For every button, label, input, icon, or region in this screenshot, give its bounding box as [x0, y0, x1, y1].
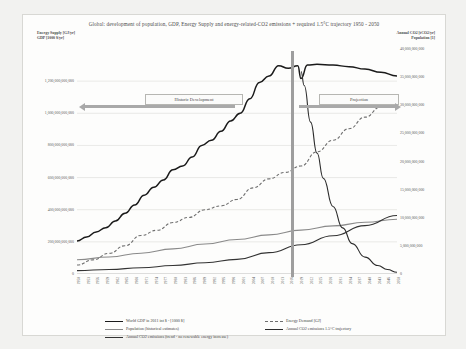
y-tick-right: 0 — [397, 272, 402, 276]
x-tick-label: 2016 — [290, 277, 294, 284]
x-tick-label: 1953 — [87, 277, 91, 284]
projection-divider-line — [291, 51, 294, 277]
legend-item[interactable]: Population (historical estimates) — [105, 326, 179, 332]
direction-arrow-head — [79, 103, 85, 111]
direction-arrow — [299, 105, 395, 108]
legend-label: Energy Demand [GJ] — [286, 318, 321, 323]
legend-label: Annual CO2 emissions 1.5°C trajectory — [286, 326, 351, 331]
x-tick-label: 1959 — [106, 277, 110, 284]
y-tick-right: 15,000,000,000 — [397, 188, 424, 192]
y-tick-left: 200,000,000,000 — [48, 240, 77, 244]
x-tick-label: 1971 — [145, 277, 149, 284]
direction-arrow — [85, 105, 235, 108]
plot-canvas — [77, 49, 397, 274]
plot-area: 1,200,000,000,0001,000,000,000,000800,00… — [77, 49, 397, 274]
x-tick-label: 1962 — [116, 277, 120, 284]
x-tick-label: 1986 — [193, 277, 197, 284]
chart-frame: Global: development of population, GDP, … — [22, 14, 446, 336]
x-tick-label: 1980 — [174, 277, 178, 284]
legend-label: World GDP in 2011 int $ - [1000 $] — [126, 318, 184, 323]
x-axis-ticks: 1950195319561959196219651968197119741977… — [77, 277, 397, 311]
annotation-projection: Projection — [319, 94, 399, 105]
y-tick-right: 10,000,000,000 — [397, 216, 424, 220]
x-tick-label: 1998 — [232, 277, 236, 284]
legend-swatch — [105, 337, 123, 338]
y-tick-left: 1,000,000,000,000 — [45, 111, 77, 115]
legend-item[interactable]: Annual CO2 emissions 1.5°C trajectory — [265, 326, 351, 332]
x-tick-label: 2043 — [378, 277, 382, 284]
x-tick-label: 1968 — [135, 277, 139, 284]
y-tick-left: 400,000,000,000 — [48, 208, 77, 212]
y-tick-right: 30,000,000,000 — [397, 103, 424, 107]
y-tick-right: 5,000,000,000 — [397, 244, 422, 248]
left-axis-header: Energy Supply [GJ/yr]GDP [1000 $/yr] — [37, 31, 75, 42]
x-tick-label: 1956 — [96, 277, 100, 284]
x-tick-label: 2019 — [300, 277, 304, 284]
x-tick-label: 1974 — [155, 277, 159, 284]
legend-item[interactable]: Energy Demand [GJ] — [265, 318, 321, 324]
x-tick-label: 1965 — [125, 277, 129, 284]
x-tick-label: 1977 — [164, 277, 168, 284]
x-tick-label: 2040 — [368, 277, 372, 284]
y-tick-left: 1,200,000,000,000 — [45, 79, 77, 83]
x-tick-label: 1950 — [77, 277, 81, 284]
x-tick-label: 2031 — [339, 277, 343, 284]
x-tick-label: 2034 — [349, 277, 353, 284]
x-tick-label: 2046 — [387, 277, 391, 284]
y-tick-left: 800,000,000,000 — [48, 143, 77, 147]
right-axis-header: Annual CO2 [tCO2/yr]Population [1] — [397, 31, 435, 42]
x-tick-label: 2022 — [310, 277, 314, 284]
y-tick-left: 0 — [72, 272, 77, 276]
x-tick-label: 2028 — [329, 277, 333, 284]
y-tick-left: 600,000,000,000 — [48, 176, 77, 180]
legend-swatch — [105, 321, 123, 322]
legend-label: Population (historical estimates) — [126, 326, 179, 331]
y-tick-right: 35,000,000,000 — [397, 75, 424, 79]
annotation-historic-development: Historic Development — [145, 94, 243, 105]
legend-swatch — [265, 329, 283, 330]
series-line — [77, 64, 397, 241]
x-tick-label: 1983 — [184, 277, 188, 284]
x-tick-label: 1989 — [203, 277, 207, 284]
y-tick-right: 25,000,000,000 — [397, 131, 424, 135]
chart-legend: World GDP in 2011 int $ - [1000 $]Energy… — [83, 318, 433, 348]
x-tick-label: 2050 — [397, 277, 401, 284]
legend-label: Annual CO2 emissions (trend - no renewab… — [126, 334, 228, 339]
x-tick-label: 2013 — [281, 277, 285, 284]
x-tick-label: 2037 — [358, 277, 362, 284]
x-tick-label: 2007 — [261, 277, 265, 284]
x-tick-label: 1992 — [213, 277, 217, 284]
direction-arrow-head — [395, 103, 401, 111]
x-tick-label: 2010 — [271, 277, 275, 284]
x-tick-label: 2004 — [252, 277, 256, 284]
x-tick-label: 1995 — [222, 277, 226, 284]
chart-title: Global: development of population, GDP, … — [23, 21, 445, 27]
y-tick-right: 40,000,000,000 — [397, 47, 424, 51]
legend-item[interactable]: World GDP in 2011 int $ - [1000 $] — [105, 318, 184, 324]
legend-swatch — [105, 329, 123, 330]
legend-swatch — [265, 321, 283, 322]
x-tick-label: 2001 — [242, 277, 246, 284]
x-tick-label: 2025 — [319, 277, 323, 284]
legend-item[interactable]: Annual CO2 emissions (trend - no renewab… — [105, 334, 228, 340]
y-tick-right: 20,000,000,000 — [397, 160, 424, 164]
